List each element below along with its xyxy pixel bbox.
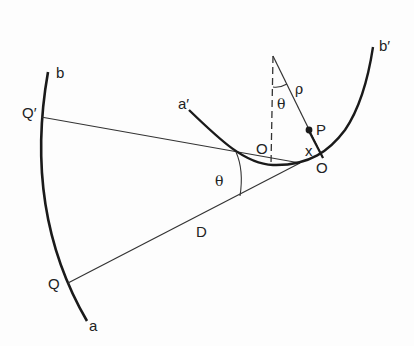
label-o-center: O: [256, 141, 268, 156]
label-theta-top: θ: [277, 97, 285, 111]
label-q-prime: Q′: [22, 105, 36, 120]
label-q: Q: [48, 276, 60, 291]
diagram-canvas: b Q′ Q a a′ b′ O O P x ρ θ θ D: [0, 0, 414, 346]
line-q-o-D: [68, 163, 300, 283]
label-x: x: [305, 143, 313, 158]
label-o-right: O: [316, 160, 328, 175]
label-a-prime: a′: [178, 96, 189, 111]
theta-arc-bottom: [236, 152, 241, 196]
theta-arc-top: [273, 84, 287, 87]
label-theta-bottom: θ: [215, 174, 223, 188]
dashed-normal: [271, 56, 273, 165]
label-p: P: [316, 122, 326, 137]
diagram-svg: [0, 0, 414, 346]
label-b: b: [56, 65, 64, 80]
label-d: D: [196, 224, 207, 239]
label-a: a: [89, 318, 97, 333]
label-rho: ρ: [295, 82, 303, 96]
label-b-prime: b′: [379, 38, 390, 53]
point-P: [306, 127, 313, 134]
